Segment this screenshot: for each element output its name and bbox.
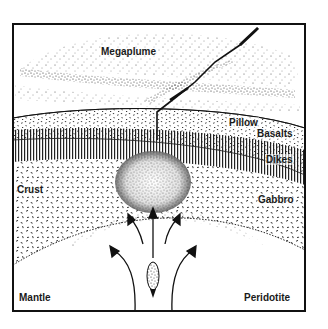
label-mantle: Mantle	[18, 292, 52, 303]
label-crust: Crust	[16, 184, 44, 195]
label-pillow: Pillow	[228, 117, 259, 128]
label-gabbro: Gabbro	[257, 194, 295, 205]
label-dikes: Dikes	[265, 154, 294, 165]
label-peridotite: Peridotite	[243, 292, 291, 303]
melt-blob	[147, 262, 159, 290]
label-megaplume: Megaplume	[100, 46, 157, 57]
label-basalts: Basalts	[256, 128, 294, 139]
